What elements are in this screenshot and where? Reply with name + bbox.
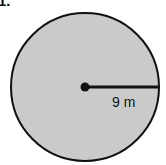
radius-measurement-label: 9 m [112,95,135,110]
center-point-dot [81,83,90,92]
item-number-label: 1. [0,0,11,8]
circle-figure: 1. 9 m [0,0,166,165]
circle-diagram-svg [0,0,166,165]
